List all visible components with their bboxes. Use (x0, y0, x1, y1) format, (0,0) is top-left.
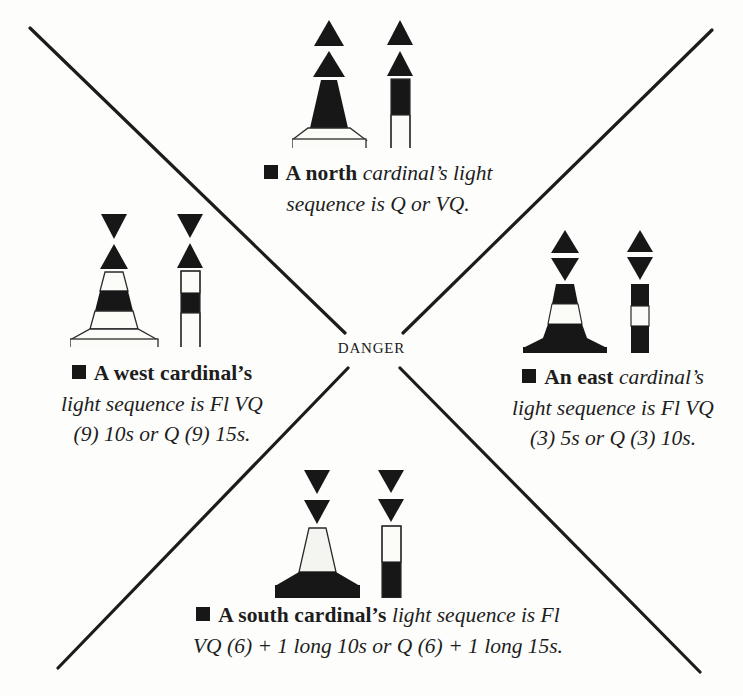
west-pillar-buoy (70, 214, 158, 347)
spar-topmark-cone-up-lower (387, 51, 413, 76)
west-caption-line3: (9) 10s or Q (9) 15s. (18, 419, 306, 450)
topmark-cone-down-lower (304, 500, 330, 524)
west-caption: A west cardinal’s light sequence is Fl V… (18, 358, 306, 450)
bullet-square-icon (72, 365, 86, 379)
topmark-cone-down (101, 214, 127, 239)
south-caption: A south cardinal’s light sequence is Fl … (128, 600, 628, 661)
spar-yellow-band (631, 306, 649, 326)
spar-black-lower (382, 562, 401, 598)
west-caption-line2: light sequence is Fl VQ (18, 389, 306, 420)
cone-body-black-upper (552, 284, 578, 304)
cone-body-yellow-lower (90, 311, 138, 329)
topmark-cone-up (551, 230, 579, 253)
danger-label: DANGER (329, 337, 414, 360)
spar-yellow-upper (181, 271, 200, 293)
east-caption: An east cardinal’s light sequence is Fl … (488, 362, 738, 454)
spar-band-yellow (391, 115, 410, 148)
north-cardinal-mark-graphic (292, 18, 442, 148)
cone-base-plate (523, 347, 607, 353)
topmark-cone-down-upper (304, 470, 330, 494)
spar-yellow-lower (181, 313, 200, 347)
spar-black-upper (631, 284, 649, 306)
east-caption-bold: An east (544, 365, 613, 389)
north-pillar-buoy (292, 20, 366, 148)
south-spar-buoy (378, 470, 404, 598)
north-caption-line1-rest: cardinal’s light (357, 161, 492, 185)
cardinal-marks-diagram: DANGER (0, 0, 743, 696)
west-spar-buoy (177, 214, 203, 347)
north-caption: A north cardinal’s light sequence is Q o… (228, 158, 528, 219)
spar-topmark-cone-down-lower (378, 499, 404, 522)
north-spar-buoy (387, 20, 413, 148)
spar-yellow-upper (382, 526, 401, 562)
east-caption-line3: (3) 5s or Q (3) 10s. (488, 423, 738, 454)
east-pillar-buoy (523, 230, 607, 353)
bullet-square-icon (264, 165, 278, 179)
south-cardinal-mark-graphic (272, 468, 432, 598)
east-caption-line2: light sequence is Fl VQ (488, 393, 738, 424)
topmark-cone-up (100, 244, 128, 269)
south-caption-line2: VQ (6) + 1 long 10s or Q (6) + 1 long 15… (128, 631, 628, 662)
north-caption-bold: A north (286, 161, 358, 185)
spar-topmark-cone-up (177, 243, 203, 268)
topmark-cone-up-upper (314, 20, 344, 46)
cone-body-black-lower (543, 324, 587, 338)
cone-base-flare (275, 572, 360, 586)
west-cardinal-mark-graphic (70, 212, 225, 347)
pillar-base-flare (292, 128, 366, 140)
cone-body-yellow (299, 528, 336, 572)
topmark-cone-up-lower (313, 51, 345, 77)
west-caption-bold: A west cardinal’s (94, 361, 253, 385)
north-caption-line2: sequence is Q or VQ. (228, 189, 528, 220)
cone-base-plate (70, 339, 158, 347)
spar-topmark-cone-down (177, 214, 203, 238)
east-caption-line1-rest: cardinal’s (614, 365, 704, 389)
cone-body-black-band (95, 291, 133, 311)
cone-base-flare (523, 338, 607, 348)
pillar-base-plate (292, 139, 366, 148)
cone-body-yellow-band (548, 304, 582, 324)
bullet-square-icon (196, 607, 210, 621)
spar-topmark-cone-up (627, 230, 653, 252)
topmark-cone-down (551, 258, 579, 281)
spar-black-lower (631, 326, 649, 353)
pillar-body-black (310, 80, 348, 128)
east-cardinal-mark-graphic (522, 228, 677, 353)
spar-black-band (181, 293, 200, 313)
south-caption-bold: A south cardinal’s (218, 603, 386, 627)
south-pillar-buoy (275, 470, 360, 598)
bullet-square-icon (522, 369, 536, 383)
spar-topmark-cone-up-upper (387, 20, 413, 45)
east-spar-buoy (627, 230, 653, 353)
cone-base-plate (275, 585, 360, 598)
south-caption-line1-rest: light sequence is Fl (387, 603, 560, 627)
spar-topmark-cone-down (627, 257, 653, 280)
spar-band-black (391, 79, 410, 115)
cone-body-yellow-upper (100, 272, 128, 291)
spar-topmark-cone-down-upper (378, 470, 404, 493)
